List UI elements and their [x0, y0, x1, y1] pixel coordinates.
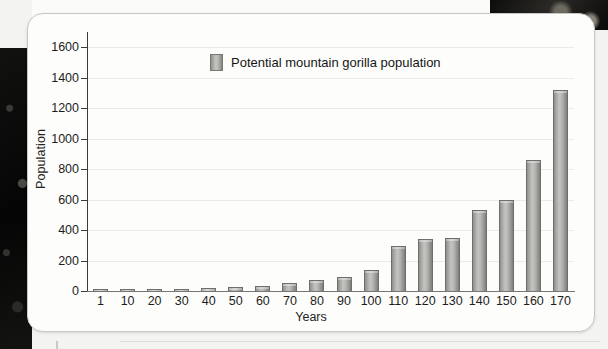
bar-highlight: [527, 161, 540, 163]
bar-highlight: [256, 287, 269, 289]
bar: [499, 200, 514, 291]
y-tick-mark: [81, 261, 87, 262]
gridline: [87, 139, 574, 140]
bar-highlight: [283, 284, 296, 286]
x-axis-title: Years: [28, 310, 594, 324]
bar-highlight: [554, 91, 567, 93]
y-tick-label: 1000: [35, 132, 79, 146]
y-tick-label: 200: [35, 254, 79, 268]
bar-highlight: [229, 288, 242, 290]
chart-legend: Potential mountain gorilla population: [210, 54, 441, 71]
y-axis-line: [87, 32, 88, 291]
y-tick-label: 1400: [35, 71, 79, 85]
bar-highlight: [392, 247, 405, 249]
bar-highlight: [310, 281, 323, 283]
gridline: [87, 169, 574, 170]
bar: [472, 210, 487, 291]
bar-highlight: [338, 278, 351, 280]
y-tick-mark: [81, 169, 87, 170]
y-tick-label: 600: [35, 193, 79, 207]
bar-highlight: [365, 271, 378, 273]
bar: [309, 280, 324, 291]
bar-highlight: [446, 239, 459, 241]
bar: [526, 160, 541, 291]
page-caption-tick: [56, 341, 58, 349]
bar-highlight: [419, 240, 432, 242]
bar: [337, 277, 352, 291]
y-tick-label: 800: [35, 162, 79, 176]
bar: [445, 238, 460, 291]
bar: [282, 283, 297, 291]
x-axis-line: [87, 291, 575, 292]
y-tick-label: 1200: [35, 101, 79, 115]
y-tick-mark: [81, 230, 87, 231]
y-tick-mark: [81, 108, 87, 109]
y-tick-label: 400: [35, 223, 79, 237]
legend-swatch-icon: [210, 54, 223, 71]
y-axis-tick-labels: 02004006008001000120014001600: [28, 14, 79, 331]
bar-highlight: [473, 211, 486, 213]
bar: [391, 246, 406, 291]
chart-card: Population 02004006008001000120014001600…: [27, 13, 595, 332]
bar: [364, 270, 379, 291]
y-tick-mark: [81, 78, 87, 79]
chart-plot-wrapper: Population 02004006008001000120014001600…: [28, 14, 594, 331]
y-tick-mark: [81, 47, 87, 48]
gridline: [87, 108, 574, 109]
y-tick-mark: [81, 291, 87, 292]
gridline: [87, 78, 574, 79]
bar: [418, 239, 433, 291]
legend-label: Potential mountain gorilla population: [231, 55, 441, 70]
y-tick-label: 0: [35, 284, 79, 298]
y-tick-mark: [81, 200, 87, 201]
bar-highlight: [500, 201, 513, 203]
x-tick-label: 170: [540, 294, 580, 308]
y-tick-mark: [81, 139, 87, 140]
gridline: [87, 47, 574, 48]
page-horizontal-rule: [120, 341, 600, 342]
bar: [553, 90, 568, 291]
y-tick-label: 1600: [35, 40, 79, 54]
